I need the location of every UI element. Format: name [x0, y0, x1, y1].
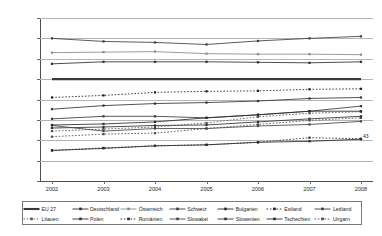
legend-swatch-icon — [169, 205, 186, 213]
data-point-osterreich — [154, 51, 156, 53]
data-point-ungarn — [154, 132, 156, 134]
legend-swatch-icon — [72, 215, 89, 223]
legend-label: Polen — [90, 216, 105, 222]
line-chart: 0%20%40%60%80%100%120%140%160% 200220032… — [0, 0, 382, 236]
data-point-tschechien — [154, 121, 156, 123]
data-point-schweiz — [360, 35, 362, 37]
legend-item-slowakei[interactable]: Slowakei — [169, 214, 218, 224]
x-tickmark — [155, 181, 156, 184]
data-point-tschechien — [102, 123, 104, 125]
data-point-rumanien — [360, 138, 362, 140]
data-point-rumanien — [257, 141, 259, 143]
x-tick-label: 2002 — [32, 186, 72, 192]
legend-label: Rumänien — [139, 216, 165, 222]
data-point-osterreich — [308, 53, 310, 55]
data-point-deutschland — [51, 63, 53, 65]
legend-item-schweiz[interactable]: Schweiz — [169, 204, 218, 214]
series-line-schweiz — [52, 36, 361, 44]
x-tick-label: 2008 — [341, 186, 381, 192]
x-tickmark — [52, 181, 53, 184]
x-tickmark — [258, 181, 259, 184]
data-point-slowenien — [257, 100, 259, 102]
legend-swatch-icon — [266, 215, 283, 223]
legend-swatch-icon — [23, 215, 40, 223]
legend-item-slowenien[interactable]: Slowenien — [217, 214, 266, 224]
data-point-slowenien — [360, 96, 362, 98]
data-point-litauen — [257, 116, 259, 118]
data-point-rumanien — [205, 144, 207, 146]
data-point-ungarn — [205, 127, 207, 129]
data-point-polen — [51, 127, 53, 129]
data-point-polen — [205, 124, 207, 126]
legend-label: Tschechien — [284, 216, 312, 222]
legend-item-eu-27[interactable]: EU 27 — [23, 204, 72, 214]
legend-item-tschechien[interactable]: Tschechien — [266, 214, 315, 224]
data-point-ungarn — [102, 133, 104, 135]
legend-item-rumanien[interactable]: Rumänien — [120, 214, 169, 224]
data-point-osterreich — [360, 54, 362, 56]
data-point-lettland — [102, 115, 104, 117]
data-point-rumanien — [102, 147, 104, 149]
legend-item-lettland[interactable]: Lettland — [314, 204, 363, 214]
data-point-slowenien — [308, 97, 310, 99]
legend-item-deutschland[interactable]: Deutschland — [72, 204, 121, 214]
legend-swatch-icon — [120, 215, 137, 223]
data-point-schweiz — [205, 43, 207, 45]
legend-item-osterreich[interactable]: Österreich — [120, 204, 169, 214]
data-point-litauen — [308, 112, 310, 114]
legend-item-estland[interactable]: Estland — [266, 204, 315, 214]
data-point-lettland — [360, 105, 362, 107]
data-point-slowenien — [102, 105, 104, 107]
data-point-estland — [51, 96, 53, 98]
data-point-estland — [205, 90, 207, 92]
data-point-estland — [360, 88, 362, 90]
x-tick-label: 2006 — [238, 186, 278, 192]
data-point-tschechien — [257, 114, 259, 116]
legend-swatch-icon — [217, 205, 234, 213]
legend-item-ungarn[interactable]: Ungarn — [314, 214, 363, 224]
legend-row-1: EU 27DeutschlandÖsterreichSchweizBulgari… — [23, 204, 363, 214]
data-point-ungarn — [360, 117, 362, 119]
chart-legend: EU 27DeutschlandÖsterreichSchweizBulgari… — [22, 201, 362, 225]
x-tickmark — [310, 181, 311, 184]
data-point-ungarn — [308, 119, 310, 121]
legend-label: Deutschland — [90, 206, 120, 212]
x-tickmark — [207, 181, 208, 184]
x-tick-label: 2004 — [135, 186, 175, 192]
data-point-deutschland — [360, 61, 362, 63]
data-point-tschechien — [308, 110, 310, 112]
data-point-deutschland — [308, 62, 310, 64]
legend-item-litauen[interactable]: Litauen — [23, 214, 72, 224]
x-tick-label: 2003 — [84, 186, 124, 192]
data-point-slowakei — [154, 127, 156, 129]
legend-swatch-icon — [169, 215, 186, 223]
data-point-slowenien — [205, 101, 207, 103]
data-point-tschechien — [205, 117, 207, 119]
x-tickmark — [361, 181, 362, 184]
legend-label: Litauen — [42, 216, 61, 222]
data-point-ungarn — [51, 136, 53, 138]
legend-swatch-icon — [314, 215, 331, 223]
data-point-litauen — [51, 130, 53, 132]
data-point-slowenien — [51, 108, 53, 110]
legend-label: Ungarn — [333, 216, 352, 222]
data-point-schweiz — [102, 40, 104, 42]
legend-label: Lettland — [333, 206, 353, 212]
data-point-osterreich — [257, 53, 259, 55]
data-point-polen — [154, 124, 156, 126]
data-point-ungarn — [257, 123, 259, 125]
data-label: 43 — [363, 133, 369, 139]
legend-label: Slowakei — [187, 216, 210, 222]
legend-item-bulgarien[interactable]: Bulgarien — [217, 204, 266, 214]
plot-area: 0%20%40%60%80%100%120%140%160% 200220032… — [40, 18, 373, 181]
data-point-tschechien — [360, 110, 362, 112]
legend-item-polen[interactable]: Polen — [72, 214, 121, 224]
data-point-deutschland — [257, 61, 259, 63]
legend-swatch-icon — [23, 205, 40, 213]
data-point-slowakei — [102, 130, 104, 132]
data-point-rumanien — [308, 137, 310, 139]
x-tick-label: 2007 — [290, 186, 330, 192]
legend-label: EU 27 — [42, 206, 58, 212]
data-point-litauen — [205, 122, 207, 124]
legend-label: Estland — [284, 206, 303, 212]
